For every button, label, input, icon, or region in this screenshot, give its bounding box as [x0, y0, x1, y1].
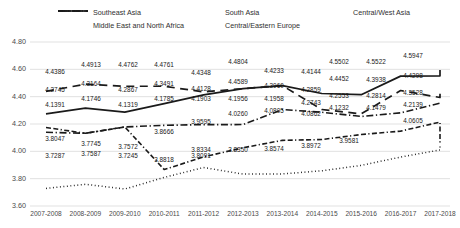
data-point-label: 4.1391	[45, 101, 65, 108]
data-point-label: 4.5502	[329, 58, 349, 65]
x-axis-tick-label: 2016-2017	[381, 210, 421, 217]
data-point-label: 4.3491	[154, 80, 174, 87]
data-point-label: 4.5522	[366, 58, 386, 65]
data-point-label: 4.2814	[366, 92, 386, 99]
data-point-label: 4.3164	[81, 80, 101, 87]
x-axis-tick-label: 2011-2012	[184, 210, 224, 217]
data-point-label: 4.3060	[264, 82, 284, 89]
y-axis-tick-label: 4.40	[2, 92, 26, 101]
data-point-label: 4.4913	[81, 61, 101, 68]
y-axis-tick-label: 4.60	[2, 64, 26, 73]
data-point-label: 4.2745	[45, 86, 65, 93]
data-point-label: 4.1785	[154, 95, 174, 102]
data-point-label: 4.4233	[264, 67, 284, 74]
data-point-label: 3.8091	[191, 152, 211, 159]
data-point-label: 3.8666	[154, 128, 174, 135]
y-axis-tick-label: 3.60	[2, 201, 26, 210]
data-point-label: 4.0605	[403, 117, 423, 124]
x-axis-tick-label: 2010-2011	[144, 210, 184, 217]
x-axis-tick-label: 2012-2013	[223, 210, 263, 217]
data-point-label: 4.4762	[118, 61, 138, 68]
data-point-label: 4.4144	[301, 68, 321, 75]
data-point-label: 4.2743	[301, 99, 321, 106]
data-point-label: 3.7745	[81, 140, 101, 147]
data-point-label: 4.3528	[403, 89, 423, 96]
data-point-label: 4.2867	[118, 86, 138, 93]
data-point-label: 4.3938	[366, 76, 386, 83]
data-point-label: 3.7572	[118, 143, 138, 150]
data-point-label: 4.4128	[191, 85, 211, 92]
data-point-label: 4.4804	[228, 58, 248, 65]
data-point-label: 4.2859	[301, 86, 321, 93]
x-axis-tick-label: 2014-2015	[302, 210, 342, 217]
data-point-label: 3.8350	[228, 146, 248, 153]
data-point-label: 4.1903	[191, 95, 211, 102]
y-axis-tick-label: 4.00	[2, 146, 26, 155]
data-point-label: 4.2553	[329, 92, 349, 99]
x-axis-tick-label: 2007-2008	[26, 210, 66, 217]
data-point-label: 4.4298	[403, 72, 423, 79]
data-point-label: 4.4348	[191, 69, 211, 76]
data-point-label: 3.7287	[45, 152, 65, 159]
y-axis-tick-label: 4.80	[2, 37, 26, 46]
data-point-label: 4.0805	[264, 107, 284, 114]
data-point-label: 3.8818	[154, 156, 174, 163]
data-point-label: 3.7245	[118, 152, 138, 159]
data-point-label: 4.2139	[403, 101, 423, 108]
x-axis-tick-label: 2008-2009	[65, 210, 105, 217]
data-point-label: 4.1319	[118, 101, 138, 108]
data-point-label: 4.4386	[45, 68, 65, 75]
x-axis-tick-label: 2009-2010	[105, 210, 145, 217]
y-axis-tick-label: 3.80	[2, 174, 26, 183]
data-point-label: 4.0260	[228, 110, 248, 117]
data-point-label: 4.4761	[154, 61, 174, 68]
data-point-label: 4.1958	[264, 95, 284, 102]
data-point-label: 4.1232	[329, 104, 349, 111]
data-point-label: 4.0862	[301, 110, 321, 117]
data-point-label: 3.8047	[45, 135, 65, 142]
data-point-label: 3.8972	[301, 142, 321, 149]
data-point-label: 4.4589	[228, 78, 248, 85]
data-point-label: 4.1479	[366, 104, 386, 111]
data-point-label: 4.1746	[81, 95, 101, 102]
data-point-label: 3.7587	[81, 150, 101, 157]
data-point-label: 4.4452	[329, 75, 349, 82]
data-point-label: 4.5947	[403, 52, 423, 59]
data-point-label: 3.8574	[264, 145, 284, 152]
x-axis-tick-label: 2015-2016	[341, 210, 381, 217]
y-axis-tick-label: 4.20	[2, 119, 26, 128]
x-axis-tick-label: 2017-2018	[420, 210, 460, 217]
data-point-label: 3.9595	[191, 118, 211, 125]
data-point-label: 4.1956	[228, 95, 248, 102]
x-axis-tick-label: 2013-2014	[262, 210, 302, 217]
data-point-label: 3.9581	[339, 137, 359, 144]
